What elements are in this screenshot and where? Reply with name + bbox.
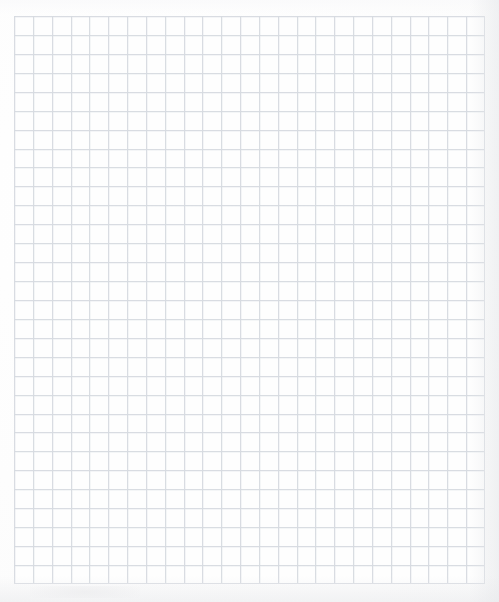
grid-scan-blur-layer [14,16,485,584]
top-edge-shading [0,0,499,14]
grid-right-border-line [484,16,485,584]
grid-bottom-border-line [14,583,485,584]
grid-paper-page [0,0,499,602]
ruled-grid [14,16,485,584]
bottom-left-scan-smudge [30,586,140,598]
